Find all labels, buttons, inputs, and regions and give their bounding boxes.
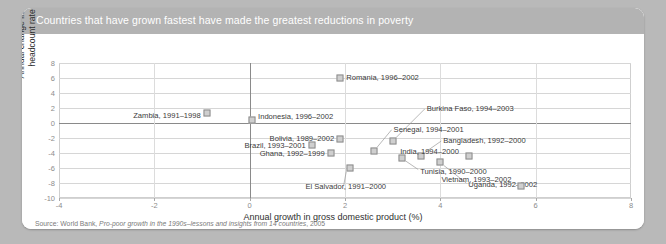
x-tick-label-0: 0 [248,201,252,210]
source-prefix: Source: World Bank, [35,220,99,227]
data-point-marker[interactable] [370,147,377,154]
data-point-marker[interactable] [337,135,344,142]
x-tick-mark-4 [440,198,441,201]
source-note: Source: World Bank, Pro-poor growth in t… [35,220,325,227]
x-tick-label-8: 8 [629,201,633,210]
x-tick-label-2: 2 [343,201,347,210]
source-title: Pro-poor growth in the 1990s–lessons and… [99,220,306,227]
data-point-marker[interactable] [399,154,406,161]
data-point-marker[interactable] [249,117,256,124]
figure-card: Countries that have grown fastest have m… [22,8,644,229]
data-point-marker[interactable] [308,141,315,148]
y-tick-label-2: 2 [51,104,55,113]
x-tick-label--2: -2 [151,201,158,210]
data-point-label: Indonesia, 1996–2002 [258,112,333,121]
y-tick-label-0: 0 [51,119,55,128]
y-tick-label--2: -2 [48,134,55,143]
data-point-marker[interactable] [437,159,444,166]
y-tick-label-8: 8 [51,59,55,68]
data-point-label: Vietnam, 1993–2002 [441,175,511,184]
data-point-label: Bangladesh, 1992–2000 [443,136,525,145]
data-point-label: Burkina Faso, 1994–2003 [427,104,514,113]
data-point-label: El Salvador, 1991–2000 [305,182,386,191]
gridline-x-2 [345,63,346,198]
y-tick-label--4: -4 [48,149,55,158]
data-point-marker[interactable] [203,110,210,117]
data-point-marker[interactable] [346,165,353,172]
data-point-label: Ghana, 1992–1999 [260,149,325,158]
figure-header-bar: Countries that have grown fastest have m… [22,8,644,34]
x-tick-mark-0 [250,198,251,201]
x-tick-mark-6 [536,198,537,201]
data-point-label: Senegal, 1994–2001 [394,124,464,133]
gridline-x--2 [154,63,155,198]
data-point-marker[interactable] [327,150,334,157]
data-point-marker[interactable] [337,75,344,82]
y-tick-label--6: -6 [48,164,55,173]
y-tick-label--8: -8 [48,179,55,188]
x-tick-mark-2 [345,198,346,201]
y-tick-label--10: -10 [44,194,55,203]
data-point-marker[interactable] [465,153,472,160]
gridline-x-6 [536,63,537,198]
data-point-label: Romania, 1996–2002 [346,73,419,82]
data-point-marker[interactable] [518,183,525,190]
y-axis-title-text: Annual change in poverty headcount rate … [22,8,37,79]
x-tick-label--4: -4 [56,201,63,210]
source-suffix: , 2005 [306,220,325,227]
data-point-label: India, 1994–2000 [400,147,459,156]
figure-title: Countries that have grown fastest have m… [36,14,413,26]
x-tick-mark--2 [154,198,155,201]
data-point-label: Zambia, 1991–1998 [133,111,201,120]
x-tick-mark--4 [59,198,60,201]
chart-plot-region: 86420-2-4-6-8-10 -4-202468 Romania, 1996… [59,63,631,198]
x-tick-label-6: 6 [534,201,538,210]
y-tick-label-6: 6 [51,74,55,83]
y-tick-label-4: 4 [51,89,55,98]
y-axis-title: Annual change in poverty headcount rate … [22,8,38,90]
plot-area: Annual change in poverty headcount rate … [22,34,644,229]
gridline-x-0 [250,63,251,198]
x-tick-mark-8 [631,198,632,201]
data-point-marker[interactable] [389,138,396,145]
x-tick-label-4: 4 [438,201,442,210]
